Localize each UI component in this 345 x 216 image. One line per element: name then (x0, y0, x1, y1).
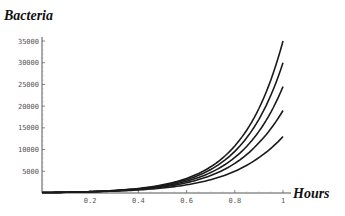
x-tick-label: 0.4 (132, 197, 145, 205)
y-tick-label: 5000 (22, 168, 39, 176)
y-tick-label: 25000 (18, 81, 39, 89)
axes: 50001000015000200002500030000350000.20.4… (18, 37, 291, 205)
bacteria-growth-chart: Bacteria Hours 5000100001500020000250003… (0, 0, 345, 216)
y-tick-label: 35000 (18, 38, 39, 46)
growth-curve (42, 41, 283, 193)
growth-curve (42, 110, 283, 192)
x-tick-label: 1 (281, 197, 285, 205)
growth-curve (42, 87, 283, 193)
x-tick-label: 0.8 (228, 197, 241, 205)
x-tick-label: 0.2 (84, 197, 97, 205)
y-tick-label: 30000 (18, 59, 39, 67)
y-tick-label: 20000 (18, 103, 39, 111)
x-tick-label: 0.6 (180, 197, 193, 205)
growth-curve (42, 63, 283, 193)
x-axis-title: Hours (292, 186, 330, 201)
y-tick-label: 10000 (18, 146, 39, 154)
curves (42, 41, 283, 193)
y-axis-title: Bacteria (3, 8, 53, 23)
y-tick-label: 15000 (18, 124, 39, 132)
